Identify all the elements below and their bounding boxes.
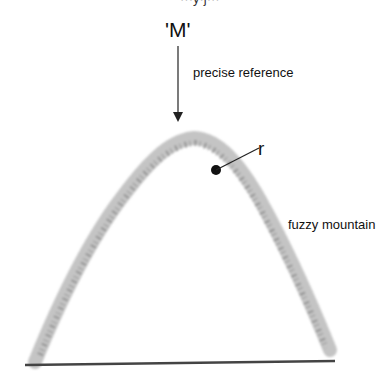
fuzzy-mountain-shape bbox=[35, 138, 330, 362]
fuzzy-mountain-label: fuzzy mountain bbox=[288, 217, 375, 232]
point-r-label: r bbox=[258, 138, 264, 160]
mountain-diagram bbox=[0, 0, 386, 389]
baseline bbox=[25, 361, 335, 365]
precise-reference-label: precise reference bbox=[193, 65, 293, 80]
m-label: 'M' bbox=[165, 18, 191, 42]
reference-arrow bbox=[173, 46, 183, 122]
